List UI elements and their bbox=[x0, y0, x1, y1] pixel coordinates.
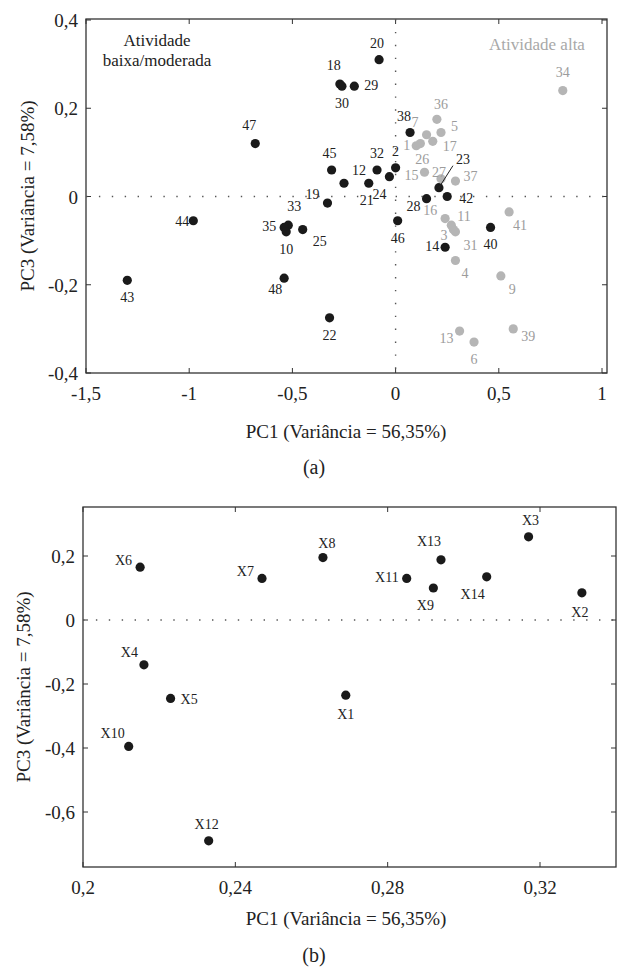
y-tick-label: -0,2 bbox=[48, 275, 78, 296]
panel-a-annotation-high: Atividade alta bbox=[489, 35, 585, 54]
x-tick-label: 0,2 bbox=[71, 877, 95, 898]
data-point bbox=[505, 207, 514, 216]
y-tick-label: -0,2 bbox=[45, 674, 75, 695]
point-label: X10 bbox=[101, 726, 125, 741]
point-label: 12 bbox=[352, 163, 366, 178]
y-tick-label: 0,2 bbox=[54, 98, 78, 119]
point-label: 5 bbox=[451, 119, 458, 134]
data-point bbox=[451, 176, 460, 185]
point-label: X12 bbox=[195, 817, 219, 832]
point-label: 22 bbox=[323, 328, 337, 343]
point-label: 38 bbox=[397, 109, 411, 124]
data-point bbox=[337, 82, 346, 91]
data-point bbox=[189, 216, 198, 225]
point-label: 33 bbox=[287, 199, 301, 214]
point-label: 3 bbox=[440, 228, 447, 243]
data-point bbox=[327, 165, 336, 174]
point-label: 31 bbox=[463, 238, 477, 253]
y-tick-label: 0 bbox=[69, 187, 79, 208]
data-point bbox=[509, 324, 518, 333]
data-point bbox=[393, 216, 402, 225]
data-point bbox=[451, 227, 460, 236]
point-label: 45 bbox=[323, 146, 337, 161]
data-point bbox=[123, 276, 132, 285]
data-point bbox=[432, 115, 441, 124]
panel-b-y-axis-title: PC3 (Variância = 7,58%) bbox=[13, 591, 35, 782]
point-label: X9 bbox=[417, 598, 434, 613]
data-point bbox=[374, 55, 383, 64]
panel-a-caption: (a) bbox=[303, 456, 325, 479]
point-label: 28 bbox=[407, 199, 421, 214]
point-label: X14 bbox=[461, 587, 485, 602]
point-label: X7 bbox=[237, 564, 254, 579]
y-tick-label: -0,6 bbox=[45, 802, 75, 823]
point-label: 11 bbox=[457, 209, 470, 224]
point-label: 14 bbox=[425, 239, 439, 254]
point-label: 19 bbox=[305, 187, 319, 202]
panel-b-x-axis-title: PC1 (Variância = 56,35%) bbox=[246, 908, 447, 930]
point-label: X4 bbox=[121, 645, 138, 660]
data-point bbox=[298, 225, 307, 234]
data-point bbox=[339, 179, 348, 188]
data-point bbox=[524, 532, 533, 541]
point-label: 34 bbox=[556, 65, 570, 80]
point-label: X11 bbox=[375, 570, 399, 585]
data-point bbox=[416, 139, 425, 148]
point-label: 6 bbox=[471, 352, 478, 367]
panel-b-scatter: 0,20,240,280,320,20-0,2-0,4-0,6 X1X2X3X4… bbox=[13, 507, 616, 967]
point-label: 15 bbox=[404, 168, 418, 183]
data-point bbox=[318, 553, 327, 562]
data-point bbox=[341, 691, 350, 700]
point-label: 9 bbox=[509, 282, 516, 297]
data-point bbox=[428, 137, 437, 146]
data-point bbox=[436, 555, 445, 564]
data-point bbox=[429, 583, 438, 592]
panel-a-annotation-low-line1: Atividade bbox=[123, 31, 190, 50]
y-tick-label: -0,4 bbox=[45, 738, 76, 759]
point-label: 2 bbox=[392, 144, 399, 159]
point-label: 7 bbox=[412, 115, 419, 130]
point-label: 44 bbox=[175, 214, 189, 229]
data-point bbox=[486, 223, 495, 232]
data-point bbox=[257, 574, 266, 583]
x-tick-label: 0,24 bbox=[219, 877, 253, 898]
data-point bbox=[420, 168, 429, 177]
panel-a-points: 2018302947384512322242119234228464433351… bbox=[120, 36, 570, 367]
point-label: 10 bbox=[279, 242, 293, 257]
panel-a-y-axis-title: PC3 (Variância = 7,58%) bbox=[17, 100, 39, 291]
x-tick-label: 0,32 bbox=[523, 877, 556, 898]
data-point bbox=[385, 172, 394, 181]
point-label: X8 bbox=[318, 536, 335, 551]
x-tick-label: -1 bbox=[181, 383, 197, 404]
point-label: 29 bbox=[364, 78, 378, 93]
data-point bbox=[436, 128, 445, 137]
panel-a-scatter: -1,5-1-0,500,510,40,20-0,2-0,4 201830294… bbox=[17, 10, 607, 479]
data-point bbox=[391, 163, 400, 172]
y-tick-label: 0 bbox=[66, 610, 76, 631]
panel-a-x-axis-title: PC1 (Variância = 56,35%) bbox=[246, 421, 447, 443]
x-tick-label: 0,5 bbox=[487, 383, 511, 404]
data-point bbox=[443, 192, 452, 201]
data-point bbox=[204, 836, 213, 845]
data-point bbox=[323, 199, 332, 208]
data-point bbox=[364, 179, 373, 188]
data-point bbox=[251, 139, 260, 148]
panel-a-reference-lines bbox=[86, 19, 607, 373]
y-tick-label: 0,2 bbox=[51, 546, 75, 567]
data-point bbox=[469, 338, 478, 347]
point-label: 20 bbox=[370, 36, 384, 51]
point-label: 16 bbox=[423, 203, 437, 218]
x-tick-label: 1 bbox=[597, 383, 607, 404]
point-label: 25 bbox=[313, 234, 327, 249]
y-tick-label: -0,4 bbox=[48, 363, 79, 384]
y-tick-label: 0,4 bbox=[54, 10, 78, 31]
point-label: 26 bbox=[415, 152, 429, 167]
data-point bbox=[455, 326, 464, 335]
data-point bbox=[124, 742, 133, 751]
point-label: 21 bbox=[360, 193, 374, 208]
point-label: X13 bbox=[417, 534, 441, 549]
point-label: 46 bbox=[391, 231, 405, 246]
point-label: X1 bbox=[337, 707, 354, 722]
point-label: 4 bbox=[461, 266, 468, 281]
point-label: 18 bbox=[327, 58, 341, 73]
